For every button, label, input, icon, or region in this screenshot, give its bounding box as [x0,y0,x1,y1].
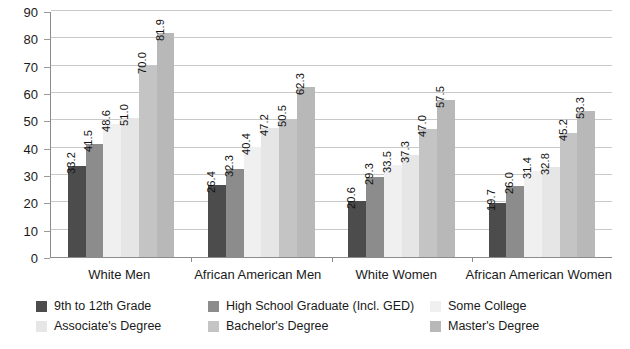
bar-value-label: 81.9 [155,19,166,41]
bar-slot: 57.5 [437,12,455,257]
legend-row: 9th to 12th GradeHigh School Graduate (I… [36,296,630,316]
y-tick-label: 50 [24,115,38,128]
x-axis-category-label: White Women [327,260,466,290]
bar-value-label: 37.3 [400,141,411,163]
bar-value-label: 20.6 [346,187,357,209]
bar[interactable]: 57.5 [437,100,455,257]
legend-swatch-icon [430,301,441,312]
bar-slot: 48.6 [103,12,121,257]
y-tick-label: 30 [24,170,38,183]
bar-slot: 19.7 [489,12,507,257]
bar[interactable]: 70.0 [139,66,157,257]
bar-slot: 81.9 [157,12,175,257]
bar[interactable]: 26.0 [506,186,524,257]
x-axis-category-label: African American Men [189,260,328,290]
chart-legend: 9th to 12th GradeHigh School Graduate (I… [0,296,630,348]
bar-group-bars: 26.432.340.447.250.562.3 [208,12,315,257]
legend-swatch-icon [430,321,441,332]
bar[interactable]: 48.6 [103,124,121,257]
bar[interactable]: 47.2 [261,128,279,257]
bar[interactable]: 53.3 [577,111,595,257]
x-axis-category-label: African American Women [466,260,612,290]
bar-group: 26.432.340.447.250.562.3 [191,12,331,257]
bar-value-label: 53.3 [575,97,586,119]
bar-slot: 50.5 [279,12,297,257]
y-tick-label: 10 [24,224,38,237]
bar-value-label: 26.0 [504,172,515,194]
y-tick-label: 70 [24,60,38,73]
bar-group-bars: 20.629.333.537.347.057.5 [348,12,455,257]
bar-slot: 70.0 [139,12,157,257]
gridline [51,10,612,11]
bar[interactable]: 31.4 [524,171,542,257]
bar-value-label: 29.3 [364,163,375,185]
bar-slot: 20.6 [348,12,366,257]
bar-value-label: 32.3 [224,155,235,177]
bar-group: 19.726.031.432.845.253.3 [472,12,612,257]
bar[interactable]: 51.0 [121,118,139,257]
bar-group: 33.241.548.651.070.081.9 [51,12,191,257]
legend-item[interactable]: Master's Degree [430,316,560,336]
x-axis-category-label: White Men [50,260,189,290]
bar-slot: 51.0 [121,12,139,257]
bar[interactable]: 32.3 [226,169,244,257]
bar-slot: 45.2 [560,12,578,257]
legend-swatch-icon [208,321,219,332]
legend-label: 9th to 12th Grade [54,300,151,313]
bar-value-label: 33.2 [66,152,77,174]
legend-item[interactable]: Bachelor's Degree [208,316,430,336]
bar-value-label: 62.3 [295,73,306,95]
x-axis-labels: White MenAfrican American MenWhite Women… [50,260,612,290]
bar[interactable]: 19.7 [489,203,507,257]
legend-item[interactable]: 9th to 12th Grade [36,296,208,316]
bar[interactable]: 81.9 [157,33,175,257]
bar-value-label: 45.2 [558,119,569,141]
legend-swatch-icon [208,301,219,312]
legend-item[interactable]: Some College [430,296,560,316]
bar-slot: 31.4 [524,12,542,257]
bar[interactable]: 26.4 [208,185,226,257]
plot-area: 33.241.548.651.070.081.926.432.340.447.2… [50,12,612,258]
bar-slot: 33.5 [384,12,402,257]
bar[interactable]: 20.6 [348,201,366,257]
bar-value-label: 32.8 [540,153,551,175]
bar-group: 20.629.333.537.347.057.5 [332,12,472,257]
bar[interactable]: 50.5 [279,119,297,257]
bar[interactable]: 33.2 [68,166,86,257]
bar[interactable]: 33.5 [384,165,402,257]
bar[interactable]: 41.5 [86,144,104,257]
legend-label: Master's Degree [448,320,539,333]
y-axis: 0102030405060708090 [0,0,44,290]
bar-slot: 26.4 [208,12,226,257]
bar-value-label: 47.2 [259,114,270,136]
bar-slot: 26.0 [506,12,524,257]
bar-value-label: 50.5 [277,105,288,127]
bar-slot: 41.5 [86,12,104,257]
bar[interactable]: 47.0 [419,129,437,257]
bar[interactable]: 45.2 [560,133,578,257]
bar[interactable]: 62.3 [297,87,315,257]
y-tick-label: 90 [24,6,38,19]
bar[interactable]: 40.4 [244,147,262,257]
bar[interactable]: 37.3 [402,155,420,257]
legend-label: High School Graduate (Incl. GED) [226,300,414,313]
y-tick-label: 20 [24,197,38,210]
bar-value-label: 48.6 [101,110,112,132]
bar-chart: 0102030405060708090 33.241.548.651.070.0… [0,0,630,349]
legend-label: Associate's Degree [54,320,161,333]
bar-value-label: 57.5 [435,86,446,108]
y-tick-label: 60 [24,88,38,101]
legend-swatch-icon [36,321,47,332]
legend-swatch-icon [36,301,47,312]
bar[interactable]: 32.8 [542,167,560,257]
bar-value-label: 33.5 [382,151,393,173]
bar-slot: 53.3 [577,12,595,257]
y-tick-label: 80 [24,33,38,46]
legend-item[interactable]: High School Graduate (Incl. GED) [208,296,430,316]
bar-value-label: 51.0 [119,104,130,126]
legend-item[interactable]: Associate's Degree [36,316,208,336]
bar-group-bars: 33.241.548.651.070.081.9 [68,12,175,257]
bar[interactable]: 29.3 [366,177,384,257]
y-tick-label: 0 [31,252,38,265]
bar-slot: 62.3 [297,12,315,257]
